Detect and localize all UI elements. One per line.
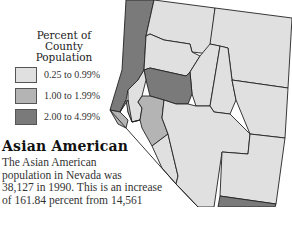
legend-label: 1.00 to 1.99% [44,90,100,101]
description-line: in 1980. Most of the county [2,206,172,207]
legend-swatch-low [15,67,37,83]
description-line: The Asian American [2,156,172,169]
legend-item-low: 0.25 to 0.99% [12,65,112,84]
description-line: 38,127 in 1990. This is an increase [2,181,172,194]
legend-item-high: 2.00 to 4.99% [12,107,112,126]
legend: Percent of County Population 0.25 to 0.9… [12,30,112,126]
section-title: Asian American [2,138,128,154]
legend-swatch-high [15,109,37,125]
legend-item-mid: 1.00 to 1.99% [12,86,112,105]
legend-title: Percent of County Population [16,30,112,63]
legend-label: 2.00 to 4.99% [44,111,100,122]
legend-swatch-mid [15,88,37,104]
description-line: of 161.84 percent from 14,561 [2,194,172,207]
legend-title-line2: County Population [16,41,112,63]
description-line: population in Nevada was [2,169,172,182]
description-text: The Asian American population in Nevada … [2,156,172,207]
legend-label: 0.25 to 0.99% [44,69,100,80]
